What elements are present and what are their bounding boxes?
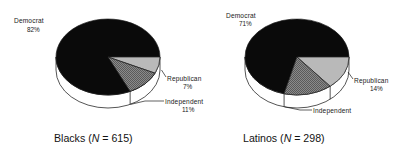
label-republican-pct-latinos: 14% xyxy=(370,85,383,92)
label-democrat-pct-blacks: 82% xyxy=(27,26,40,33)
caption-blacks: Blacks (N = 615) xyxy=(54,132,133,144)
label-independent-blacks: Independent xyxy=(165,98,203,106)
label-independent-latinos: Independent xyxy=(313,107,351,115)
label-republican-pct-blacks: 7% xyxy=(183,83,193,90)
pie-chart-figure: Democrat 82% Republican 7% Independent 1… xyxy=(0,0,415,152)
label-democrat-pct-latinos: 71% xyxy=(239,20,252,27)
caption-blacks-suffix: = 615) xyxy=(99,132,132,144)
caption-latinos-prefix: Latinos ( xyxy=(243,132,284,144)
label-democrat-blacks: Democrat xyxy=(14,17,44,24)
caption-latinos: Latinos (N = 298) xyxy=(243,132,325,144)
caption-blacks-prefix: Blacks ( xyxy=(54,132,92,144)
caption-latinos-suffix: = 298) xyxy=(291,132,324,144)
label-republican-blacks: Republican xyxy=(167,75,202,83)
label-republican-latinos: Republican xyxy=(354,77,389,85)
label-independent-pct-blacks: 11% xyxy=(182,106,195,113)
label-democrat-latinos: Democrat xyxy=(226,12,256,19)
